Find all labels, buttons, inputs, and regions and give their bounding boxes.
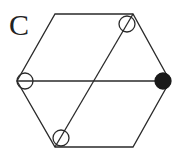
node-right <box>155 73 171 89</box>
hexagon-diagram <box>0 0 179 152</box>
